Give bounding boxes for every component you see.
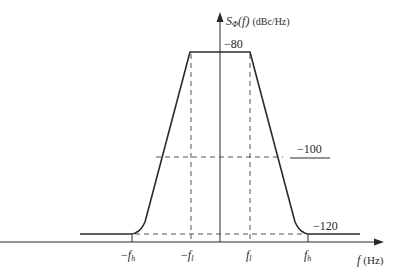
y-axis-label: SΦ(f) (dBc/Hz) [226,15,290,29]
level-label-minus100: −100 [297,143,322,155]
level-label-minus80: −80 [224,38,243,50]
tick-label-fh: fh [304,249,311,263]
spectrum-diagram [0,0,401,273]
tick-label-minus-fl: −fl [181,249,193,263]
tick-label-fl: fl [246,249,252,263]
x-axis-label: f (Hz) [357,254,384,266]
tick-label-minus-fh: −fh [121,249,135,263]
level-label-minus120: −120 [313,220,338,232]
y-axis-arrow-icon [217,12,224,22]
dashed-guides [135,54,307,242]
x-axis-arrow-icon [374,239,384,246]
